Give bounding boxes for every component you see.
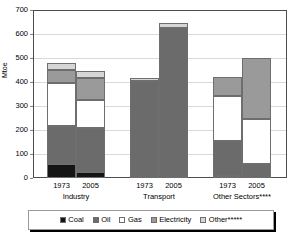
bar-segment-oil [159, 28, 188, 178]
bar-segment-gas [242, 119, 271, 163]
x-axis-group-label: Other Sectors**** [182, 192, 296, 201]
bar-segment-electricity [242, 58, 271, 119]
x-tick-label-year: 2005 [159, 181, 188, 190]
bar-segment-other [159, 23, 188, 28]
legend-swatch-icon [93, 217, 99, 223]
legend-item-coal[interactable]: Coal [60, 216, 84, 224]
bar-segment-gas [76, 100, 105, 128]
bar-segment-oil [130, 81, 159, 178]
y-tick-label: 500 [2, 54, 28, 62]
x-tick-label-year: 1973 [130, 181, 159, 190]
y-tick-label: 200 [2, 126, 28, 134]
bar-transport-2005[interactable] [159, 10, 188, 178]
legend-item-other[interactable]: Other***** [200, 216, 242, 224]
bar-segment-electricity [213, 77, 242, 96]
bar-segment-other [130, 78, 159, 80]
bar-industry-1973[interactable] [47, 10, 76, 178]
bar-other-sectors-1973[interactable] [213, 10, 242, 178]
legend-item-oil[interactable]: Oil [93, 216, 111, 224]
x-tick-label-year: 1973 [213, 181, 242, 190]
stacked-bar-chart: Mtoe 7006005004003002001000 19732005Indu… [0, 0, 296, 245]
y-tick-label: 600 [2, 30, 28, 38]
bar-segment-coal [76, 172, 105, 178]
legend-label: Gas [128, 216, 142, 224]
legend-swatch-icon [60, 217, 66, 223]
bar-segment-oil [76, 128, 105, 172]
bar-segment-oil [47, 126, 76, 163]
legend-label: Coal [68, 216, 83, 224]
bar-segment-other [76, 71, 105, 78]
bar-industry-2005[interactable] [76, 10, 105, 178]
y-tick-label: 0 [2, 174, 28, 182]
bar-other-sectors-2005[interactable] [242, 10, 271, 178]
legend-swatch-icon [151, 217, 157, 223]
bar-segment-coal [47, 164, 76, 178]
y-tick-label: 300 [2, 102, 28, 110]
x-tick-label-year: 2005 [242, 181, 271, 190]
y-tick-mark [30, 178, 33, 179]
bar-segment-gas [213, 96, 242, 140]
bar-segment-other [47, 63, 76, 70]
y-tick-label: 400 [2, 78, 28, 86]
legend-label: Other***** [209, 216, 242, 224]
x-tick-label-year: 1973 [47, 181, 76, 190]
legend-item-electricity[interactable]: Electricity [151, 216, 192, 224]
bar-segment-oil [213, 141, 242, 176]
x-tick-label-year: 2005 [76, 181, 105, 190]
chart-legend: CoalOilGasElectricityOther***** [28, 210, 274, 230]
legend-item-gas[interactable]: Gas [119, 216, 141, 224]
bar-segment-electricity [76, 78, 105, 100]
bars-layer [33, 10, 287, 178]
y-tick-label: 700 [2, 6, 28, 14]
legend-swatch-icon [119, 217, 125, 223]
bar-transport-1973[interactable] [130, 10, 159, 178]
bar-segment-oil [242, 164, 271, 178]
legend-label: Electricity [159, 216, 191, 224]
y-tick-label: 100 [2, 150, 28, 158]
bar-segment-gas [47, 83, 76, 126]
legend-swatch-icon [200, 217, 206, 223]
y-axis-tick-labels: 7006005004003002001000 [0, 0, 28, 190]
legend-label: Oil [101, 216, 110, 224]
bar-segment-coal [213, 176, 242, 178]
bar-segment-electricity [47, 70, 76, 83]
